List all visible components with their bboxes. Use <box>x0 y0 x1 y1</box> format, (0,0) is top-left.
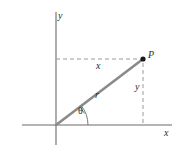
point-p-label: P <box>148 50 154 60</box>
radius-label: r <box>95 90 99 100</box>
y-axis-label: y <box>58 11 62 21</box>
polar-coordinate-figure: y x P x y r θ <box>0 0 180 152</box>
figure-canvas <box>0 0 180 152</box>
angle-theta-label: θ <box>78 106 83 116</box>
y-component-label: y <box>135 82 139 92</box>
x-axis-label: x <box>164 128 168 138</box>
x-component-label: x <box>96 61 100 71</box>
point-p-dot <box>140 56 145 61</box>
